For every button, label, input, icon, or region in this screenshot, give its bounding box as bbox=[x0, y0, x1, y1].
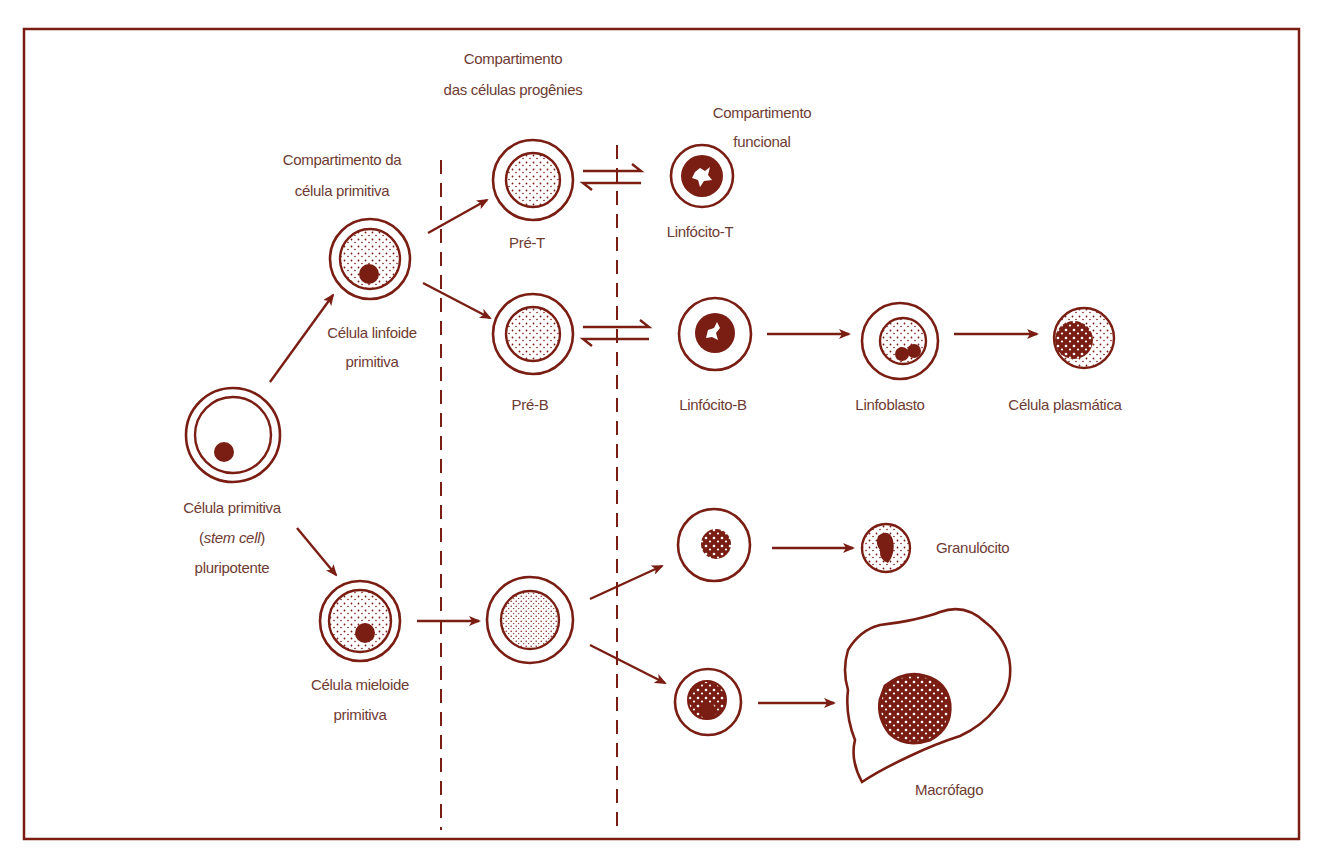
heading-functional-compartment: Compartimento funcional bbox=[713, 104, 812, 150]
svg-text:(stem cell): (stem cell) bbox=[199, 529, 265, 546]
myeloid-progeny-cell bbox=[487, 577, 573, 663]
svg-text:Compartimento: Compartimento bbox=[713, 104, 812, 121]
heading-progeny-compartment: Compartimento das células progênies bbox=[444, 50, 583, 98]
hematopoiesis-diagram: Compartimento das células progênies Comp… bbox=[0, 0, 1317, 853]
reversible-arrow-pre-t-t-lymphocyte bbox=[583, 164, 641, 190]
plasma-cell-label: Célula plasmática bbox=[1008, 396, 1122, 413]
svg-text:Compartimento: Compartimento bbox=[464, 50, 563, 67]
pre-t-cell bbox=[493, 140, 573, 220]
pre-b-label: Pré-B bbox=[512, 396, 549, 413]
svg-text:funcional: funcional bbox=[733, 133, 790, 150]
svg-text:pluripotente: pluripotente bbox=[195, 559, 270, 576]
monocyte-cell bbox=[675, 669, 741, 735]
lymphoid-primitive-cell bbox=[330, 219, 410, 299]
svg-text:Compartimento da: Compartimento da bbox=[283, 151, 403, 168]
stem-cell bbox=[186, 388, 280, 482]
lymphoid-primitive-label: Célula linfoide primitiva bbox=[327, 324, 417, 370]
t-lymphocyte-label: Linfócito-T bbox=[667, 223, 734, 240]
arrow-progeny-to-monocyte bbox=[590, 645, 665, 683]
myeloid-primitive-label: Célula mieloide primitiva bbox=[311, 676, 409, 723]
stem-cell-label: Célula primitiva (stem cell) pluripotent… bbox=[183, 499, 282, 576]
arrow-progeny-to-granulocyte-precursor bbox=[590, 566, 662, 599]
svg-text:Célula mieloide: Célula mieloide bbox=[311, 676, 409, 693]
granulocyte-cell bbox=[862, 524, 910, 572]
granulocyte-precursor-cell bbox=[678, 509, 750, 581]
arrow-stem-to-lymphoid bbox=[270, 295, 333, 382]
b-lymphocyte-cell bbox=[679, 298, 751, 370]
svg-text:das células progênies: das células progênies bbox=[444, 81, 583, 98]
b-lymphocyte-label: Linfócito-B bbox=[679, 396, 747, 413]
svg-text:célula primitiva: célula primitiva bbox=[295, 182, 390, 199]
arrow-lymphoid-to-pre-t bbox=[428, 200, 487, 233]
pre-b-cell bbox=[493, 294, 573, 374]
macrophage-cell bbox=[845, 609, 1010, 782]
pre-t-label: Pré-T bbox=[509, 234, 545, 251]
t-lymphocyte-cell bbox=[671, 145, 733, 207]
myeloid-primitive-cell bbox=[320, 581, 400, 661]
lymphoblast-label: Linfoblasto bbox=[855, 396, 924, 413]
svg-text:Célula primitiva: Célula primitiva bbox=[183, 499, 282, 516]
heading-primitive-compartment: Compartimento da célula primitiva bbox=[283, 151, 403, 199]
granulocyte-label: Granulócito bbox=[936, 539, 1009, 556]
plasma-cell bbox=[1054, 308, 1114, 368]
lymphoblast-cell bbox=[862, 303, 938, 379]
svg-text:Célula linfoide: Célula linfoide bbox=[327, 324, 417, 341]
arrow-lymphoid-to-pre-b bbox=[423, 283, 490, 318]
macrophage-label: Macrófago bbox=[915, 781, 983, 798]
svg-text:primitiva: primitiva bbox=[345, 353, 399, 370]
svg-text:primitiva: primitiva bbox=[333, 706, 387, 723]
arrow-stem-to-myeloid bbox=[297, 528, 336, 575]
